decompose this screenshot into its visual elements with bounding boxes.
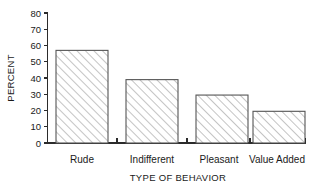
y-tick-label: 40 (30, 73, 41, 84)
category-label: Rude (70, 154, 94, 165)
y-tick-label: 50 (30, 56, 41, 67)
bar-chart-canvas: 80 70 60 50 40 30 20 10 0 PERCENT (0, 0, 320, 196)
y-tick-label: 30 (30, 89, 41, 100)
bar-indifferent (126, 80, 178, 143)
y-axis-tick-labels: 80 70 60 50 40 30 20 10 0 (30, 8, 41, 149)
bar-value-added (253, 111, 305, 143)
y-tick-label: 70 (30, 24, 41, 35)
bar-pleasant (196, 95, 248, 143)
category-label: Value Added (249, 154, 305, 165)
category-label: Pleasant (200, 154, 239, 165)
bar-rude (56, 50, 108, 143)
y-axis-title: PERCENT (5, 54, 16, 102)
y-tick-label: 0 (36, 138, 41, 149)
y-tick-label: 80 (30, 8, 41, 19)
y-tick-label: 60 (30, 40, 41, 51)
y-tick-label: 10 (30, 121, 41, 132)
chart-figure: 80 70 60 50 40 30 20 10 0 PERCENT (0, 0, 320, 196)
x-axis-title: TYPE OF BEHAVIOR (130, 172, 226, 183)
y-tick-label: 20 (30, 105, 41, 116)
category-label: Indifferent (130, 154, 175, 165)
